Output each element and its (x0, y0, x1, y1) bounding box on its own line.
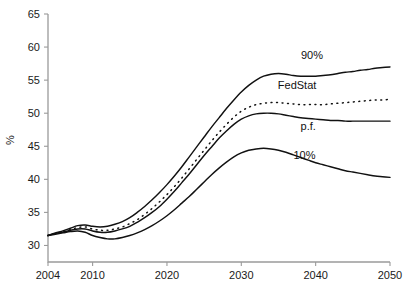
y-tick-label-30: 30 (28, 239, 40, 251)
x-tick-label-2040: 2040 (303, 269, 327, 281)
y-tick-label-40: 40 (28, 173, 40, 185)
x-tick-label-2010: 2010 (80, 269, 104, 281)
x-tick-label-2020: 2020 (155, 269, 179, 281)
y-tick-label-55: 55 (28, 74, 40, 86)
series-label-fedstat: FedStat (278, 79, 317, 91)
x-tick-label-2004: 2004 (36, 269, 60, 281)
y-tick-label-45: 45 (28, 140, 40, 152)
series-label-pf: p.f. (301, 120, 316, 132)
y-axis-title-label: % (4, 135, 16, 145)
y-tick-label-50: 50 (28, 107, 40, 119)
series-label-10: 10% (293, 149, 315, 161)
y-tick-label-60: 60 (28, 41, 40, 53)
y-tick-label-35: 35 (28, 206, 40, 218)
x-tick-label-2030: 2030 (229, 269, 253, 281)
series-label-90: 90% (301, 49, 323, 61)
chart-container: 3035404550556065 20042010202020302040205… (0, 0, 413, 294)
line-chart: 3035404550556065 20042010202020302040205… (0, 0, 413, 294)
y-axis-title: % (4, 135, 16, 145)
x-tick-label-2050: 2050 (378, 269, 402, 281)
y-tick-label-65: 65 (28, 8, 40, 20)
